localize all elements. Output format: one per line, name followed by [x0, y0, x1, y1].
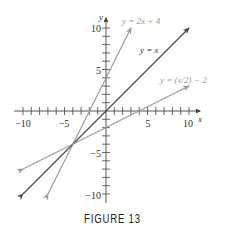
x-tick-label: 5 — [146, 118, 151, 129]
label-y-half-x-minus-2: y = (x/2) − 2 — [159, 75, 207, 85]
x-axis-label: x — [197, 114, 202, 124]
x-axis — [14, 107, 200, 115]
coordinate-plane: −10 −5 5 10 10 5 −5 −10 x y y = 2x + 4 y… — [0, 0, 225, 210]
y-axis-label: y — [98, 12, 103, 22]
x-tick-label: 10 — [183, 118, 193, 129]
x-tick-label: −5 — [59, 118, 70, 129]
y-tick-label: −10 — [85, 190, 101, 201]
y-tick-label: 5 — [96, 65, 101, 76]
y-tick-label: −5 — [90, 148, 101, 159]
y-tick-label: 10 — [91, 23, 101, 34]
x-tick-label: −10 — [15, 118, 31, 129]
label-y-x: y = x — [139, 45, 159, 55]
label-y-2x-plus-4: y = 2x + 4 — [121, 16, 161, 26]
figure-caption: FIGURE 13 — [23, 212, 203, 226]
